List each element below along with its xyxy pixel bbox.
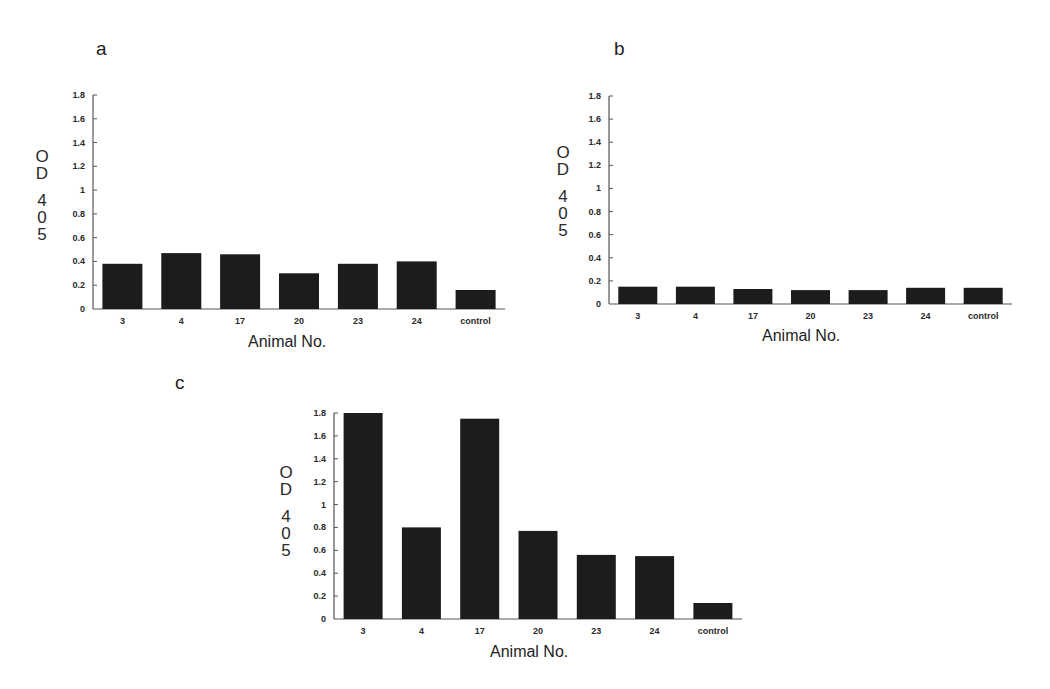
y-tick-label: 0.8 (72, 209, 85, 219)
x-tick-label: 24 (412, 316, 422, 326)
bar-20 (279, 273, 319, 309)
y-tick-label: 0.4 (588, 253, 601, 263)
x-tick-label: 3 (120, 316, 125, 326)
bar-chart-a: 00.20.40.60.811.21.41.61.83417202324cont… (72, 90, 505, 326)
y-tick-label: 1.4 (72, 138, 85, 148)
x-tick-label: 23 (591, 626, 601, 636)
x-tick-label: 4 (693, 311, 698, 321)
bar-20 (791, 290, 830, 304)
bar-4 (676, 287, 715, 304)
bar-chart-b: 00.20.40.60.811.21.41.61.83417202324cont… (588, 91, 1012, 321)
x-tick-label: 17 (235, 316, 245, 326)
y-tick-label: 0 (596, 299, 601, 309)
bar-20 (519, 531, 558, 619)
y-tick-label: 0.2 (72, 280, 85, 290)
bar-17 (733, 289, 772, 304)
y-tick-label: 1 (596, 183, 601, 193)
bar-3 (102, 264, 142, 309)
y-tick-label: 1.8 (72, 90, 85, 100)
x-tick-label: 17 (748, 311, 758, 321)
bar-17 (220, 254, 260, 309)
x-tick-label: control (698, 626, 729, 636)
y-tick-label: 1.4 (588, 137, 601, 147)
y-tick-label: 0.2 (313, 591, 326, 601)
x-tick-label: 4 (179, 316, 184, 326)
x-tick-label: 3 (635, 311, 640, 321)
x-tick-label: 4 (419, 626, 424, 636)
bar-control (456, 290, 496, 309)
y-tick-label: 0.8 (588, 207, 601, 217)
bar-23 (849, 290, 888, 304)
x-tick-label: control (460, 316, 491, 326)
y-tick-label: 1.6 (72, 114, 85, 124)
y-tick-label: 0.4 (313, 568, 326, 578)
y-tick-label: 0.6 (313, 545, 326, 555)
y-tick-label: 0.2 (588, 276, 601, 286)
bar-3 (344, 413, 383, 619)
x-tick-label: control (968, 311, 999, 321)
y-tick-label: 0.8 (313, 522, 326, 532)
y-tick-label: 1 (321, 500, 326, 510)
y-tick-label: 1.8 (313, 408, 326, 418)
bar-23 (338, 264, 378, 309)
x-tick-label: 20 (805, 311, 815, 321)
x-tick-label: 20 (294, 316, 304, 326)
y-tick-label: 1 (80, 185, 85, 195)
y-tick-label: 1.6 (588, 114, 601, 124)
x-tick-label: 23 (863, 311, 873, 321)
y-tick-label: 0.6 (588, 230, 601, 240)
bar-3 (618, 287, 657, 304)
bar-control (964, 288, 1003, 304)
y-tick-label: 1.4 (313, 454, 326, 464)
x-tick-label: 3 (361, 626, 366, 636)
bar-4 (402, 527, 441, 619)
y-tick-label: 0 (321, 614, 326, 624)
bar-control (693, 603, 732, 619)
x-tick-label: 20 (533, 626, 543, 636)
x-tick-label: 17 (475, 626, 485, 636)
bar-23 (577, 555, 616, 619)
x-tick-label: 23 (353, 316, 363, 326)
bar-24 (906, 288, 945, 304)
bar-17 (460, 419, 499, 619)
y-tick-label: 1.6 (313, 431, 326, 441)
x-tick-label: 24 (921, 311, 931, 321)
y-tick-label: 0 (80, 304, 85, 314)
y-tick-label: 1.2 (588, 160, 601, 170)
x-tick-label: 24 (650, 626, 660, 636)
y-tick-label: 1.8 (588, 91, 601, 101)
bar-24 (635, 556, 674, 619)
figure-charts: 00.20.40.60.811.21.41.61.83417202324cont… (0, 0, 1050, 689)
y-tick-label: 1.2 (313, 477, 326, 487)
y-tick-label: 1.2 (72, 161, 85, 171)
bar-4 (161, 253, 201, 309)
y-tick-label: 0.4 (72, 256, 85, 266)
bar-chart-c: 00.20.40.60.811.21.41.61.83417202324cont… (313, 408, 742, 636)
bar-24 (397, 261, 437, 309)
y-tick-label: 0.6 (72, 233, 85, 243)
